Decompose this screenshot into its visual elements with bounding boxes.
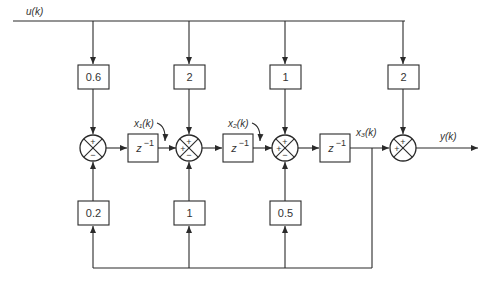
- gain-value: 1: [282, 71, 288, 83]
- input-label: u(k): [26, 6, 43, 17]
- gain-box-ff-3: 2: [388, 65, 419, 89]
- sign-top: +: [400, 137, 405, 147]
- gain-value: 0.2: [86, 207, 101, 219]
- delay-exponent: −1: [239, 138, 249, 148]
- summing-junction-2: + + −: [272, 135, 298, 161]
- summing-junction-0: + −: [80, 135, 106, 161]
- delay-z: z: [135, 142, 142, 154]
- gain-box-fb-1: 1: [174, 201, 205, 225]
- sign-left: +: [180, 144, 185, 154]
- summing-junction-output: + +: [390, 135, 416, 161]
- delay-exponent: −1: [336, 138, 346, 148]
- state-label-x3: x₃(k): [355, 127, 377, 138]
- sign-left: +: [394, 144, 399, 154]
- sign-bottom: −: [90, 150, 95, 160]
- sign-bottom: −: [282, 150, 287, 160]
- gain-box-fb-0: 0.2: [78, 201, 109, 225]
- sign-left: +: [276, 144, 281, 154]
- delay-exponent: −1: [144, 138, 154, 148]
- gain-value: 0.6: [86, 71, 101, 83]
- output-label: y(k): [439, 131, 457, 142]
- gain-value: 2: [400, 71, 406, 83]
- sign-top: +: [282, 137, 287, 147]
- sign-top: +: [186, 137, 191, 147]
- summing-junction-1: + + −: [176, 135, 202, 161]
- gain-box-fb-2: 0.5: [270, 201, 301, 225]
- gain-box-ff-0: 0.6: [78, 65, 109, 89]
- delay-block-3: z −1: [320, 134, 350, 162]
- delay-z: z: [327, 142, 334, 154]
- sign-top: +: [90, 137, 95, 147]
- delay-z: z: [230, 142, 237, 154]
- state-label-x1: x₁(k): [133, 118, 154, 129]
- gain-box-ff-2: 1: [270, 65, 301, 89]
- gain-value: 1: [186, 207, 192, 219]
- block-diagram: u(k) 0.6 2 1 2 + − z −1 x₁(k): [0, 0, 486, 283]
- delay-block-2: z −1: [223, 134, 253, 162]
- gain-value: 0.5: [278, 207, 293, 219]
- state-label-x2: x₂(k): [227, 118, 248, 129]
- gain-box-ff-1: 2: [174, 65, 205, 89]
- gain-value: 2: [186, 71, 192, 83]
- delay-block-1: z −1: [128, 134, 158, 162]
- sign-bottom: −: [186, 150, 191, 160]
